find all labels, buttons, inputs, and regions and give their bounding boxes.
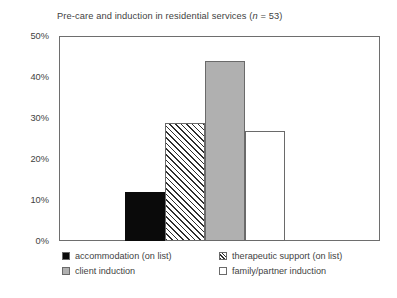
y-tick-label-20: 20% — [30, 154, 49, 164]
bar-therapeutic-support — [165, 123, 205, 241]
legend-item-therapeutic-support: therapeutic support (on list) — [219, 251, 342, 261]
legend-label-accommodation: accommodation (on list) — [75, 251, 172, 261]
legend-label-client-induction: client induction — [75, 266, 135, 276]
chart-title-suffix: = 53) — [258, 11, 283, 21]
legend-label-family-partner-induction: family/partner induction — [232, 266, 326, 276]
y-tick-label-40: 40% — [30, 72, 49, 82]
chart-legend: accommodation (on list) therapeutic supp… — [62, 250, 382, 290]
legend-item-client-induction: client induction — [62, 266, 135, 276]
y-tick-label-30: 30% — [30, 113, 49, 123]
chart-figure: Pre-care and induction in residential se… — [0, 0, 397, 298]
y-tick-label-0: 0% — [36, 236, 49, 246]
solid-white-swatch-icon — [219, 267, 227, 275]
y-tick-label-50: 50% — [30, 31, 49, 41]
bar-family-partner-induction — [245, 131, 285, 241]
legend-item-accommodation: accommodation (on list) — [62, 251, 172, 261]
chart-title: Pre-care and induction in residential se… — [57, 11, 282, 21]
bar-client-induction — [205, 61, 245, 241]
bars-layer — [60, 37, 379, 241]
legend-label-therapeutic-support: therapeutic support (on list) — [232, 251, 342, 261]
solid-black-swatch-icon — [62, 252, 70, 260]
solid-gray-swatch-icon — [62, 267, 70, 275]
bar-accommodation — [125, 192, 165, 241]
chart-title-prefix: Pre-care and induction in residential se… — [57, 11, 252, 21]
hatch-swatch-icon — [219, 252, 227, 260]
legend-item-family-partner-induction: family/partner induction — [219, 266, 326, 276]
y-axis: 50% 40% 30% 20% 10% 0% — [0, 36, 56, 241]
y-tick-label-10: 10% — [30, 195, 49, 205]
